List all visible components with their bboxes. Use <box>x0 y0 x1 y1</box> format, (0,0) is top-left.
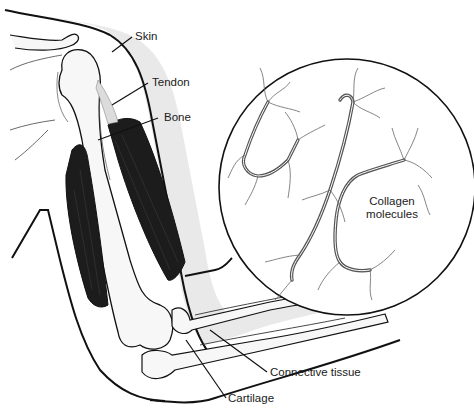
anatomy-illustration: Skin Tendon Bone Collagen molecules Conn… <box>0 0 474 410</box>
label-connective-tissue: Connective tissue <box>270 366 361 379</box>
shoulder-fibers <box>10 55 62 160</box>
label-bone: Bone <box>164 111 191 124</box>
label-cartilage: Cartilage <box>228 392 274 405</box>
label-collagen-line2: molecules <box>352 208 432 221</box>
label-skin: Skin <box>135 30 157 43</box>
clavicle <box>10 34 79 50</box>
label-tendon: Tendon <box>152 76 190 89</box>
label-collagen-line1: Collagen <box>352 195 432 208</box>
label-collagen-molecules: Collagen molecules <box>352 195 432 221</box>
